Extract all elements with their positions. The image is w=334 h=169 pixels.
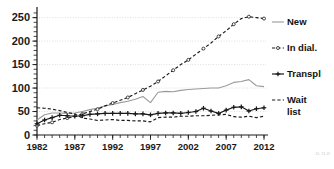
watermark: ıı. ıı.ıı bbox=[315, 150, 330, 156]
legend-item-transpl[interactable]: Transpl bbox=[272, 68, 321, 79]
x-tick-label: 1997 bbox=[140, 141, 161, 152]
x-tick-labels: 1982198719921997200220072012 bbox=[26, 141, 274, 152]
line-chart: 050100150200250 198219871992199720022007… bbox=[0, 0, 334, 169]
legend-label-line2: list bbox=[287, 106, 302, 117]
x-tick-label: 2007 bbox=[216, 141, 237, 152]
chart-container: 050100150200250 198219871992199720022007… bbox=[0, 0, 334, 169]
y-tick-label: 50 bbox=[18, 105, 30, 117]
x-tick-label: 1992 bbox=[102, 141, 123, 152]
x-tick-label: 1982 bbox=[26, 141, 47, 152]
legend-item-wait-list[interactable]: Waitlist bbox=[272, 94, 308, 117]
series-layer bbox=[35, 15, 267, 127]
legend-item-new[interactable]: New bbox=[272, 16, 307, 27]
x-tick-label: 2002 bbox=[178, 141, 199, 152]
series-transpl bbox=[35, 105, 267, 127]
y-tick-label: 200 bbox=[12, 35, 30, 47]
legend-item-in-dial[interactable]: In dial. bbox=[272, 42, 317, 53]
y-tick-label: 0 bbox=[24, 129, 30, 141]
series-in-dial bbox=[36, 15, 266, 127]
y-axis bbox=[32, 7, 37, 135]
gridlines bbox=[39, 18, 266, 112]
y-tick-label: 250 bbox=[12, 11, 30, 23]
legend-label: In dial. bbox=[287, 42, 317, 53]
y-tick-label: 150 bbox=[12, 58, 30, 70]
x-tick-label: 1987 bbox=[64, 141, 85, 152]
x-axis bbox=[37, 135, 268, 140]
legend-label: Wait bbox=[287, 94, 308, 105]
chart-legend: NewIn dial.TransplWaitlist bbox=[272, 16, 321, 117]
x-tick-label: 2012 bbox=[253, 141, 274, 152]
y-tick-labels: 050100150200250 bbox=[12, 11, 30, 140]
legend-label: Transpl bbox=[287, 68, 321, 79]
legend-label: New bbox=[287, 16, 307, 27]
y-tick-label: 100 bbox=[12, 82, 30, 94]
